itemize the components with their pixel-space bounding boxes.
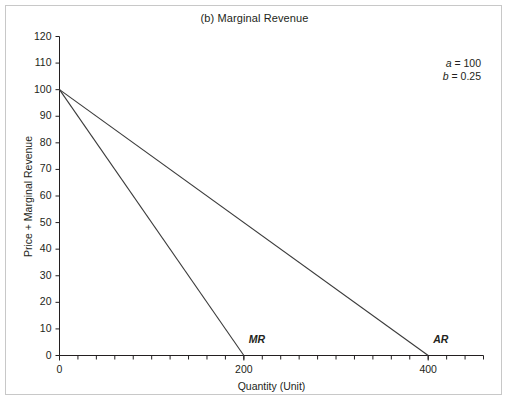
x-axis-title: Quantity (Unit)	[60, 380, 484, 392]
annotation-variable: b	[443, 70, 449, 82]
series-line-mr	[60, 90, 244, 356]
annotation-a: a = 100	[446, 57, 481, 69]
data-series	[60, 90, 429, 356]
y-axis-title: Price + Marginal Revenue	[22, 37, 34, 356]
series-label-mr: MR	[249, 333, 265, 345]
series-label-ar: AR	[433, 333, 448, 345]
axis-ticks	[56, 37, 484, 361]
x-tick-label: 200	[224, 363, 264, 375]
annotation-b: b = 0.25	[443, 70, 481, 82]
annotation-variable: a	[446, 57, 452, 69]
x-tick-label: 0	[40, 363, 80, 375]
axes	[60, 37, 484, 356]
x-tick-label: 400	[408, 363, 448, 375]
figure-canvas: (b) Marginal Revenue 0102030405060708090…	[0, 0, 509, 403]
series-line-ar	[60, 90, 429, 356]
